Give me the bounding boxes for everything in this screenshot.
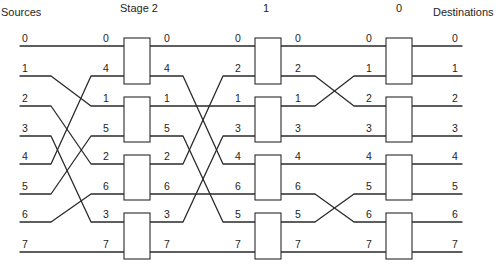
- switch-box: [124, 97, 150, 142]
- destination-labels: 0 1 2 3 4 5 6 7: [452, 32, 458, 250]
- port-label: 0: [164, 32, 170, 44]
- shuffle-wires-sources-to-stage2: [20, 46, 124, 252]
- network-diagram: Sources Stage 2 1 0 Destinations: [0, 0, 499, 276]
- port-label: 1: [103, 92, 109, 104]
- source-label: 4: [22, 150, 28, 162]
- port-label: 4: [103, 62, 109, 74]
- stage-1-input-labels: 0 2 1 3 4 6 5 7: [235, 32, 241, 250]
- port-label: 2: [295, 62, 301, 74]
- port-label: 7: [295, 238, 301, 250]
- port-label: 1: [366, 62, 372, 74]
- destination-label: 4: [452, 150, 458, 162]
- switch-box: [124, 155, 150, 200]
- switch-box: [386, 155, 412, 200]
- port-label: 2: [103, 150, 109, 162]
- switch-box: [255, 38, 281, 84]
- stage-1-header: 1: [263, 2, 269, 14]
- output-wires: [412, 46, 462, 252]
- port-label: 2: [366, 92, 372, 104]
- port-label: 5: [295, 208, 301, 220]
- stage-1-switches: [255, 38, 281, 259]
- destination-label: 7: [452, 238, 458, 250]
- port-label: 1: [235, 92, 241, 104]
- port-label: 7: [366, 238, 372, 250]
- destination-label: 1: [452, 62, 458, 74]
- destination-label: 2: [452, 92, 458, 104]
- port-label: 1: [164, 92, 170, 104]
- port-label: 0: [366, 32, 372, 44]
- port-label: 7: [103, 238, 109, 250]
- source-label: 3: [22, 122, 28, 134]
- destination-label: 3: [452, 122, 458, 134]
- switch-box: [386, 38, 412, 84]
- port-label: 6: [235, 180, 241, 192]
- destinations-header: Destinations: [433, 6, 494, 18]
- port-label: 4: [164, 62, 170, 74]
- source-label: 1: [22, 62, 28, 74]
- port-label: 3: [235, 122, 241, 134]
- port-label: 2: [164, 150, 170, 162]
- stage-0-input-labels: 0 1 2 3 4 5 6 7: [366, 32, 372, 250]
- port-label: 3: [366, 122, 372, 134]
- port-label: 3: [103, 208, 109, 220]
- port-label: 0: [235, 32, 241, 44]
- port-label: 3: [164, 208, 170, 220]
- destination-label: 6: [452, 208, 458, 220]
- port-label: 6: [103, 180, 109, 192]
- port-label: 2: [235, 62, 241, 74]
- shuffle-wires-stage1-to-stage0: [281, 46, 388, 252]
- switch-box: [255, 97, 281, 142]
- port-label: 6: [366, 208, 372, 220]
- source-label: 2: [22, 92, 28, 104]
- switch-box: [124, 38, 150, 84]
- shuffle-wires-stage2-to-stage1: [150, 46, 256, 252]
- stage-1-output-labels: 0 2 1 3 4 6 5 7: [295, 32, 301, 250]
- port-label: 0: [103, 32, 109, 44]
- stage-2-header: Stage 2: [120, 2, 158, 14]
- port-label: 5: [235, 208, 241, 220]
- stage-0-switches: [386, 38, 412, 259]
- stage-2-input-labels: 0 4 1 5 2 6 3 7: [103, 32, 109, 250]
- source-label: 5: [22, 180, 28, 192]
- port-label: 5: [366, 180, 372, 192]
- source-labels: 0 1 2 3 4 5 6 7: [22, 32, 28, 250]
- destination-label: 5: [452, 180, 458, 192]
- source-label: 6: [22, 208, 28, 220]
- port-label: 5: [103, 122, 109, 134]
- port-label: 4: [235, 150, 241, 162]
- stage-2-switches: [124, 38, 150, 259]
- switch-box: [386, 213, 412, 259]
- stage-0-header: 0: [396, 2, 402, 14]
- port-label: 4: [366, 150, 372, 162]
- switch-box: [386, 97, 412, 142]
- port-label: 6: [164, 180, 170, 192]
- switch-box: [255, 213, 281, 259]
- switch-box: [255, 155, 281, 200]
- port-label: 6: [295, 180, 301, 192]
- port-label: 1: [295, 92, 301, 104]
- switch-box: [124, 213, 150, 259]
- destination-label: 0: [452, 32, 458, 44]
- port-label: 0: [295, 32, 301, 44]
- port-label: 4: [295, 150, 301, 162]
- port-label: 5: [164, 122, 170, 134]
- sources-header: Sources: [1, 6, 42, 18]
- port-label: 3: [295, 122, 301, 134]
- source-label: 0: [22, 32, 28, 44]
- source-label: 7: [22, 238, 28, 250]
- stage-2-output-labels: 0 4 1 5 2 6 3 7: [164, 32, 170, 250]
- port-label: 7: [164, 238, 170, 250]
- port-label: 7: [235, 238, 241, 250]
